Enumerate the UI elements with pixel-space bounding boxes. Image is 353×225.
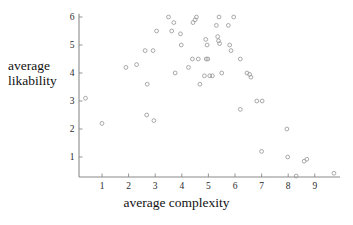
data-point: [305, 157, 309, 161]
data-point: [152, 119, 156, 123]
x-tick-label: 5: [206, 181, 211, 191]
data-point: [232, 15, 236, 19]
x-tick-label: 7: [259, 181, 264, 191]
data-point: [302, 159, 306, 163]
data-point: [204, 38, 208, 42]
x-tick-label: 9: [312, 181, 317, 191]
x-tick-label: 6: [233, 181, 238, 191]
axis-ticks: 123456123456789: [70, 12, 318, 191]
plot-canvas: 123456123456789: [0, 0, 353, 225]
data-point: [217, 15, 221, 19]
data-points: [84, 15, 336, 178]
data-point: [100, 122, 104, 126]
x-tick-label: 8: [286, 181, 291, 191]
data-point: [332, 171, 336, 175]
data-point: [84, 96, 88, 100]
data-point: [145, 113, 149, 117]
data-point: [205, 43, 209, 47]
data-point: [238, 108, 242, 112]
x-axis-label: average complexity: [0, 195, 353, 211]
data-point: [216, 35, 220, 39]
scatter-plot-figure: average likability 123456123456789 avera…: [0, 0, 353, 225]
data-point: [196, 57, 200, 61]
data-point: [238, 57, 242, 61]
data-point: [210, 74, 214, 78]
data-point: [229, 49, 233, 53]
data-point: [187, 66, 191, 70]
data-point: [172, 21, 176, 25]
data-point: [170, 29, 174, 33]
data-point: [198, 82, 202, 86]
x-tick-label: 1: [100, 181, 105, 191]
data-point: [220, 71, 224, 75]
data-point: [135, 63, 139, 67]
data-point: [173, 71, 177, 75]
data-point: [151, 49, 155, 53]
data-point: [179, 43, 183, 47]
data-point: [167, 15, 171, 19]
data-point: [228, 43, 232, 47]
data-point: [179, 32, 183, 36]
data-point: [226, 24, 230, 28]
data-point: [260, 99, 264, 103]
y-tick-label: 4: [70, 68, 75, 78]
data-point: [260, 150, 264, 154]
data-point: [145, 82, 149, 86]
y-tick-label: 5: [70, 40, 75, 50]
data-point: [124, 66, 128, 70]
data-point: [143, 49, 147, 53]
x-tick-label: 2: [126, 181, 131, 191]
y-tick-label: 6: [70, 12, 75, 22]
data-point: [255, 99, 259, 103]
data-point: [286, 155, 290, 159]
data-point: [191, 57, 195, 61]
axes: [79, 14, 340, 177]
y-tick-label: 3: [70, 96, 75, 106]
y-tick-label: 2: [70, 124, 75, 134]
data-point: [214, 24, 218, 28]
data-point: [285, 127, 289, 131]
y-tick-label: 1: [70, 152, 75, 162]
data-point: [155, 29, 159, 33]
data-point: [203, 74, 207, 78]
x-tick-label: 4: [179, 181, 184, 191]
x-tick-label: 3: [153, 181, 158, 191]
